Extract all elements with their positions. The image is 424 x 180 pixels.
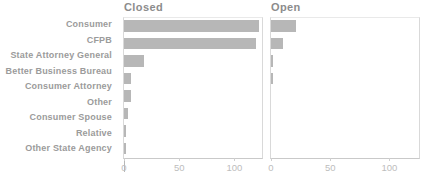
x-tick-mark <box>124 158 125 161</box>
bar-row <box>124 143 262 159</box>
bar-row <box>271 55 419 71</box>
category-label: Relative <box>0 126 118 142</box>
bar-closed <box>124 125 126 137</box>
bar-closed <box>124 20 259 32</box>
bar-row <box>124 125 262 141</box>
y-axis-labels: ConsumerCFPBState Attorney GeneralBetter… <box>0 17 118 159</box>
x-tick-label: 0 <box>268 162 273 173</box>
x-tick-label: 100 <box>381 162 397 173</box>
category-label: Consumer <box>0 17 118 33</box>
bar-row <box>124 55 262 71</box>
bar-row <box>124 38 262 54</box>
x-tick-label: 50 <box>174 162 185 173</box>
bar-closed <box>124 73 131 85</box>
category-label: State Attorney General <box>0 48 118 64</box>
bar-closed <box>124 38 256 50</box>
bar-row <box>271 119 419 135</box>
bar-row <box>124 90 262 106</box>
plot-area-closed: 050100 <box>123 17 263 159</box>
facet-title-closed: Closed <box>124 1 163 13</box>
bar-row <box>124 73 262 89</box>
bar-open <box>271 73 273 85</box>
category-label: Other State Agency <box>0 141 118 157</box>
category-label: Better Business Bureau <box>0 64 118 80</box>
bar-open <box>271 55 273 67</box>
bar-row <box>271 104 419 120</box>
plot-area-open: 050100 <box>270 17 420 159</box>
bar-row <box>271 20 419 36</box>
bar-row <box>124 20 262 36</box>
faceted-bar-chart: Closed Open ConsumerCFPBState Attorney G… <box>0 0 424 180</box>
x-tick-label: 100 <box>226 162 242 173</box>
bar-closed <box>124 55 144 67</box>
bar-row <box>271 135 419 151</box>
bar-row <box>271 73 419 89</box>
x-tick-label: 0 <box>121 162 126 173</box>
facet-title-open: Open <box>271 1 301 13</box>
x-tick-mark <box>330 158 331 161</box>
category-label: Consumer Attorney <box>0 79 118 95</box>
bar-closed <box>124 108 128 120</box>
category-label: CFPB <box>0 33 118 49</box>
bar-row <box>124 108 262 124</box>
bar-open <box>271 20 296 32</box>
x-tick-mark <box>271 158 272 161</box>
x-tick-mark <box>389 158 390 161</box>
bar-open <box>271 38 283 50</box>
x-tick-label: 50 <box>325 162 336 173</box>
bar-row <box>271 88 419 104</box>
x-tick-mark <box>179 158 180 161</box>
bar-closed <box>124 90 131 102</box>
bar-row <box>271 38 419 54</box>
category-label: Other <box>0 95 118 111</box>
bar-closed <box>124 143 126 155</box>
category-label: Consumer Spouse <box>0 110 118 126</box>
x-tick-mark <box>234 158 235 161</box>
